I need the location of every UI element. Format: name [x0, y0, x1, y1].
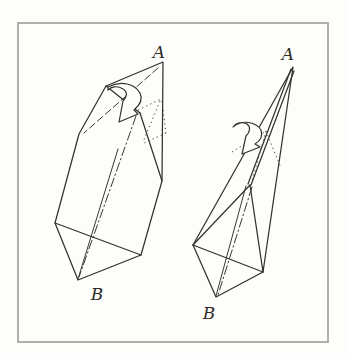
paper-outline	[193, 67, 293, 297]
inner-layer-edge	[216, 186, 246, 296]
layer-edge	[55, 223, 141, 255]
frame-border	[18, 23, 328, 342]
center-crease	[218, 187, 252, 295]
center-crease	[79, 116, 136, 277]
layer-edge	[250, 185, 263, 272]
origami-step-right: A B	[193, 44, 294, 323]
hidden-edge-dotted	[143, 101, 160, 142]
fold-arrow-icon	[233, 122, 262, 154]
vertex-label-b-right: B	[202, 303, 216, 323]
vertex-label-a-right: A	[280, 44, 294, 64]
paper-outline	[55, 62, 163, 280]
origami-diagram-page: A B A B	[0, 0, 350, 359]
origami-step-left: A B	[55, 42, 166, 304]
vertex-label-b-left: B	[90, 284, 104, 304]
vertex-label-a-left: A	[151, 42, 165, 62]
origami-diagram: A B A B	[0, 0, 350, 359]
inner-layer-edge	[78, 149, 118, 279]
valley-crease	[84, 68, 158, 133]
layer-edge	[140, 113, 162, 181]
